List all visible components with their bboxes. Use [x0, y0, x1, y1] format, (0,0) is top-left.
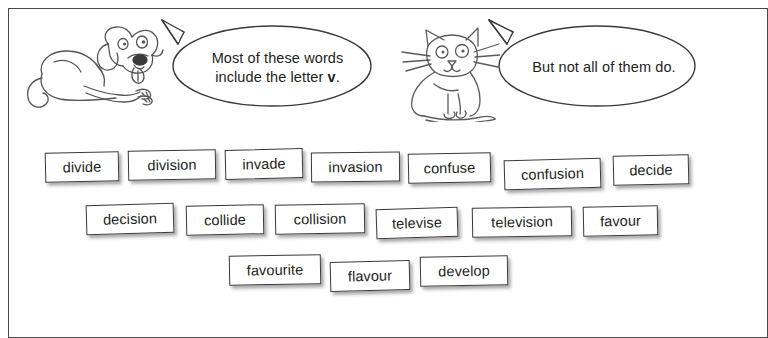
word-card-confusion[interactable]: confusion — [504, 158, 602, 191]
dog-line-2-bold-letter: v — [328, 69, 336, 85]
speech-bubble-cat: But not all of them do. — [487, 18, 699, 110]
word-card-develop[interactable]: develop — [420, 255, 509, 287]
speech-bubble-dog: Most of these words include the letter v… — [160, 18, 375, 110]
word-card-invade[interactable]: invade — [225, 148, 304, 180]
dog-line-1: Most of these words — [212, 49, 344, 68]
dog-illustration — [24, 22, 174, 121]
dog-line-2: include the letter v. — [215, 68, 340, 87]
word-card-divide[interactable]: divide — [45, 151, 120, 183]
cat-line-1: But not all of them do. — [532, 58, 675, 77]
word-card-televise[interactable]: televise — [376, 207, 459, 240]
word-card-invasion[interactable]: invasion — [311, 152, 400, 183]
cat-illustration — [400, 24, 500, 126]
word-card-favourite[interactable]: favourite — [229, 254, 322, 286]
speech-bubble-dog-text: Most of these words include the letter v… — [160, 18, 375, 110]
word-card-collide[interactable]: collide — [186, 204, 265, 236]
word-card-television[interactable]: television — [472, 206, 573, 238]
dog-line-2-suffix: . — [336, 69, 340, 85]
word-card-division[interactable]: division — [128, 149, 217, 181]
dog-line-2-prefix: include the letter — [215, 69, 327, 85]
word-card-collision[interactable]: collision — [275, 203, 366, 235]
word-card-decide[interactable]: decide — [613, 154, 690, 186]
speech-bubble-cat-text: But not all of them do. — [487, 18, 699, 110]
word-card-flavour[interactable]: flavour — [330, 260, 411, 292]
word-card-decision[interactable]: decision — [86, 203, 175, 235]
word-card-confuse[interactable]: confuse — [408, 152, 492, 184]
word-card-favour[interactable]: favour — [583, 205, 659, 237]
